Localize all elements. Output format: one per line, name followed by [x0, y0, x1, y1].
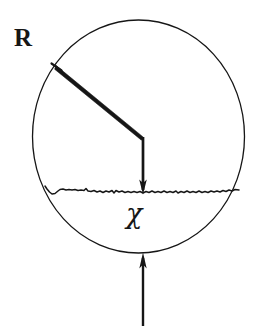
- figure-container: R χ: [0, 0, 273, 335]
- angle-label-chi: χ: [126, 200, 142, 227]
- incident-ray-icon: [55, 66, 144, 141]
- figure-canvas: [0, 0, 273, 335]
- radius-label: R: [14, 25, 32, 50]
